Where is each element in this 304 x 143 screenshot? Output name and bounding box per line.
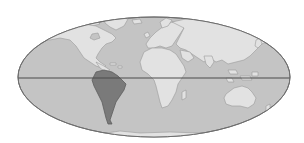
world-map xyxy=(0,0,304,143)
world-map-svg xyxy=(0,0,304,143)
madagascar xyxy=(182,90,186,100)
